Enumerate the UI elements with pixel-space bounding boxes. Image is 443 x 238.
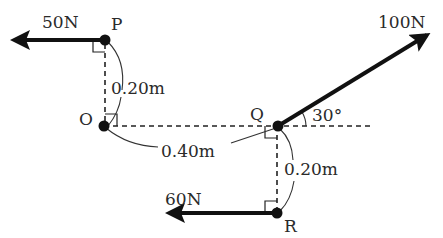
label-100N: 100N [378,12,425,32]
point-O [99,121,110,132]
label-60N: 60N [165,189,202,209]
dimension-arc-OQ-right [231,128,276,143]
force-diagram: P O Q R 50N 100N 60N 0.20m 0.40m 0.20m 3… [0,0,443,238]
angle-label: 30° [312,105,342,125]
dimension-label-OQ: 0.40m [161,141,215,161]
dimension-arc-QR-upper [280,129,293,160]
label-O: O [79,109,93,129]
force-arrow-100N [278,35,427,126]
dimension-label-OP: 0.20m [111,78,165,98]
dimension-arc-OQ-left [106,128,158,147]
label-50N: 50N [42,12,79,32]
point-P [100,35,111,46]
dimension-label-QR: 0.20m [284,159,338,179]
label-R: R [284,216,298,236]
dimension-arc-OP-lower [108,97,121,126]
label-P: P [111,14,122,34]
label-Q: Q [250,104,264,124]
point-Q [273,121,284,132]
point-R [272,208,283,219]
angle-arc-30 [302,112,306,126]
dimension-arc-QR-lower [280,181,294,211]
